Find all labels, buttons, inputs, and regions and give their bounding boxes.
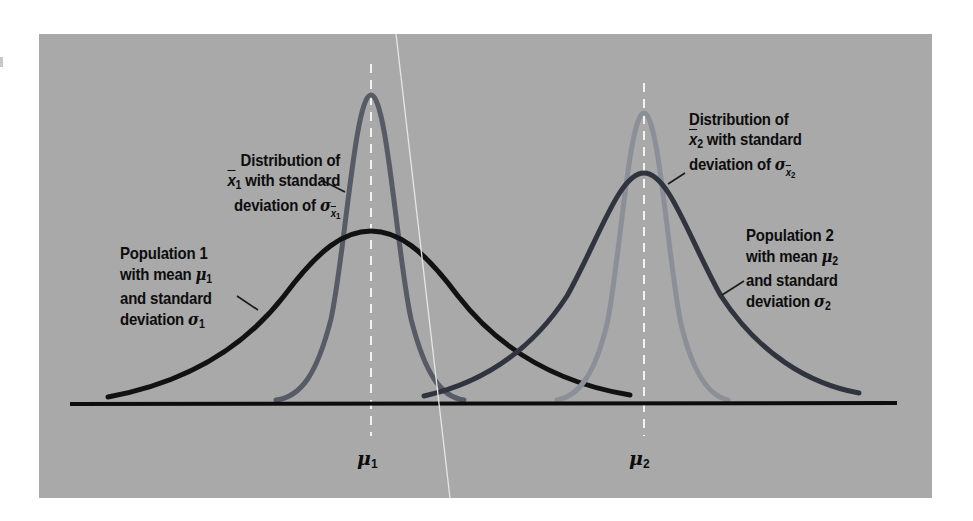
sampling2-label-line2: x2 with standard [689,130,802,154]
population1-label-line4: deviation σ1 [120,309,212,334]
population2-label: Population 2 with mean μ2 and standard d… [746,226,838,316]
sampling2-leader-line [668,173,685,184]
population2-leader-line [722,281,744,295]
sigma-symbol: σ [320,195,331,215]
sampling2-label: Distribution of x2 with standard deviati… [689,110,802,185]
sampling2-label-line1: Distribution of [689,110,802,130]
x-axis-baseline [70,403,897,404]
edge-artifact [0,57,3,67]
sampling1-label-line3: deviation of σx1 [227,195,340,226]
population1-leader-line [237,296,258,310]
population1-label-line2: with mean μ1 [120,264,212,289]
mu-symbol: μ [196,264,207,284]
sampling1-label-line1: Distribution of [227,151,340,171]
population2-label-line2: with mean μ2 [746,246,838,271]
sampling1-label: Distribution of x1 with standard deviati… [227,151,340,226]
mu2-axis-label: μ2 [629,447,650,471]
population2-label-line4: deviation σ2 [746,291,838,316]
sampling2-label-line3: deviation of σx2 [689,154,802,185]
population1-label: Population 1 with mean μ1 and standard d… [120,244,212,334]
mu1-axis-label: μ1 [357,447,378,471]
mu-symbol: μ [822,246,833,266]
xbar1-symbol: x [227,171,235,190]
diagram-panel: Distribution of x1 with standard deviati… [39,34,932,498]
population1-label-line1: Population 1 [120,244,212,264]
population1-label-line3: and standard [120,289,212,309]
sampling1-label-line2: x1 with standard [227,171,340,195]
sigma-symbol: σ [188,309,199,329]
population2-label-line1: Population 2 [746,226,838,246]
sigma-symbol: σ [775,154,786,174]
sigma-symbol: σ [814,291,825,311]
population2-label-line3: and standard [746,271,838,291]
